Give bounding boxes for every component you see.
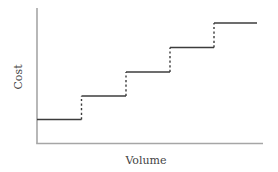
y-axis-label: Cost: [12, 64, 25, 90]
step-cost-chart: Volume Cost: [0, 0, 278, 172]
step-cost-series: [37, 23, 257, 120]
x-axis-label: Volume: [124, 154, 166, 167]
